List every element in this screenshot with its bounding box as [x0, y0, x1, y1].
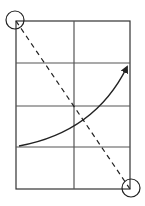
top-left-corner-circle	[6, 11, 24, 29]
dashed-diagonal	[16, 21, 130, 189]
bottom-right-corner-circle	[122, 179, 140, 197]
grid-diagram	[0, 0, 145, 206]
